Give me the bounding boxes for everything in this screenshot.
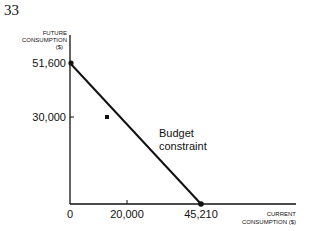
x-tick-label-45210: 45,210 <box>184 208 218 220</box>
y-tick-label-51600: 51,600 <box>32 57 66 69</box>
x-axis-label-2: CONSUMPTION ($) <box>242 219 296 225</box>
x-tick-label-0: 0 <box>67 208 73 220</box>
y-axis-label-1: FUTURE <box>43 30 67 36</box>
annotation-budget: Budget <box>159 127 194 139</box>
point-y-intercept <box>68 60 73 65</box>
annotation-constraint: constraint <box>159 140 207 152</box>
point-mid <box>105 115 109 119</box>
budget-constraint-chart: FUTURE CONSUMPTION ($) 51,600 30,000 0 2… <box>0 0 309 231</box>
y-axis-label-3: ($) <box>56 44 63 50</box>
x-axis-label-1: CURRENT <box>267 211 297 217</box>
x-tick-label-20000: 20,000 <box>110 208 144 220</box>
y-axis-label-2: CONSUMPTION <box>22 37 67 43</box>
y-tick-label-30000: 30,000 <box>32 111 66 123</box>
point-x-intercept <box>198 201 204 207</box>
